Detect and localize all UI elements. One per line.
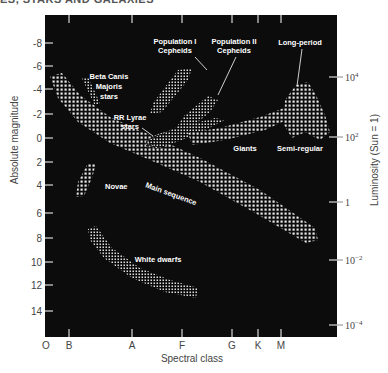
hr-diagram-chart: Beta Canis Majoris stars Population I Ce…	[0, 0, 388, 373]
novae-region	[76, 163, 96, 197]
svg-text:10−2: 10−2	[345, 254, 363, 266]
svg-text:0: 0	[36, 133, 42, 144]
long-period-label: Long-period	[278, 38, 322, 86]
svg-text:Majoris: Majoris	[96, 82, 122, 91]
svg-text:10−4: 10−4	[345, 319, 363, 331]
y-axis-title: Absolute magnitude	[9, 95, 20, 184]
svg-text:Cepheids: Cepheids	[158, 46, 192, 55]
svg-text:stars: stars	[100, 92, 118, 101]
svg-text:6: 6	[36, 208, 42, 219]
y-axis-right	[329, 77, 337, 325]
svg-text:F: F	[179, 340, 185, 351]
novae-label: Novae	[105, 182, 128, 191]
y-axis-left	[45, 43, 53, 311]
svg-text:12: 12	[31, 280, 43, 291]
svg-text:Cepheids: Cepheids	[217, 46, 251, 55]
giants-label: Giants	[233, 144, 256, 153]
white-dwarfs-label: White dwarfs	[135, 255, 182, 264]
svg-text:O: O	[42, 340, 50, 351]
svg-text:14: 14	[31, 306, 43, 317]
svg-text:2: 2	[36, 157, 42, 168]
svg-text:stars: stars	[121, 122, 139, 131]
y-axis-right-labels: 104 102 1 10−2 10−4	[345, 71, 363, 331]
svg-text:1: 1	[345, 197, 350, 208]
svg-text:104: 104	[345, 71, 359, 83]
x-axis-title: Spectral class	[161, 353, 223, 364]
semi-regular-label: Semi-regular	[277, 144, 323, 153]
svg-text:Population II: Population II	[212, 37, 257, 46]
svg-text:-4: -4	[33, 84, 42, 95]
svg-text:B: B	[66, 340, 73, 351]
svg-text:M: M	[277, 340, 285, 351]
svg-text:10: 10	[31, 257, 43, 268]
svg-text:Long-period: Long-period	[278, 38, 322, 47]
svg-text:-2: -2	[33, 109, 42, 120]
svg-text:-6: -6	[33, 61, 42, 72]
svg-text:-8: -8	[33, 38, 42, 49]
svg-text:102: 102	[345, 131, 359, 143]
y-axis-left-labels: -8 -6 -4 -2 0 2 4 6 8 10 12 14	[31, 38, 43, 317]
main-sequence-region	[50, 73, 318, 243]
main-sequence-label: Main sequence	[144, 180, 198, 207]
svg-text:K: K	[255, 340, 262, 351]
svg-text:Population I: Population I	[154, 37, 197, 46]
svg-text:RR Lyrae: RR Lyrae	[114, 113, 147, 122]
y-axis-right-ticks-outer	[337, 77, 343, 325]
semi-regular-region	[286, 110, 310, 134]
y2-axis-title: Luminosity (Sun = 1)	[369, 114, 380, 206]
svg-text:8: 8	[36, 233, 42, 244]
svg-text:A: A	[129, 340, 136, 351]
population-1-cepheids-region	[150, 68, 192, 114]
svg-text:Beta Canis: Beta Canis	[90, 72, 129, 81]
population-2-cepheids-label: Population II Cepheids	[212, 37, 257, 95]
population-1-cepheids-label: Population I Cepheids	[154, 37, 207, 70]
svg-text:G: G	[228, 340, 236, 351]
x-axis-labels: O B A F G K M	[42, 340, 285, 351]
svg-text:4: 4	[36, 180, 42, 191]
